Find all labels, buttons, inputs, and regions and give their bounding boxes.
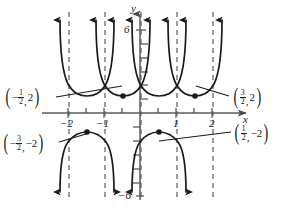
- paren-close: ): [35, 88, 40, 107]
- point-marker-half-neg2: [156, 129, 162, 135]
- paren-open: (: [3, 134, 8, 153]
- x-tick-label-1: 1: [173, 118, 179, 129]
- y-tick-label-neg6: −6: [118, 190, 131, 201]
- point-marker-three-half-2: [192, 93, 198, 99]
- paren-close: ): [39, 134, 44, 153]
- annotation-comma: ,: [24, 96, 27, 107]
- paren-close: ): [256, 88, 261, 107]
- annotation-lower-left-y: −2: [26, 138, 38, 149]
- point-marker-neg-half-2: [120, 93, 126, 99]
- branch-upward-1-2: [168, 20, 222, 96]
- annotation-lower-right-y: −2: [250, 128, 262, 139]
- x-tick-label-neg1: −1: [96, 118, 109, 129]
- x-tick-label-neg2: −2: [60, 118, 73, 129]
- annotation-upper-left-y: 2: [28, 92, 34, 103]
- annotation-upper-right-point: ( 3 2 , 2 ): [232, 88, 263, 107]
- y-tick-label-6: 6: [124, 24, 130, 35]
- branch-downward-neg2-neg1: [60, 132, 114, 192]
- paren-open: (: [234, 124, 239, 143]
- annotation-comma: ,: [22, 142, 25, 153]
- paren-close: ): [264, 124, 269, 143]
- annotation-lower-right-point: ( 1 2 , −2 ): [233, 124, 270, 143]
- graph-figure: x y −2 −1 1 2 6 −6 ( − 1 2 , 2 ) ( 3 2 ,…: [0, 0, 286, 210]
- point-marker-neg-three-half-neg2: [84, 129, 90, 135]
- annotation-upper-right-y: 2: [249, 92, 255, 103]
- branch-upward-neg2-neg1: [60, 20, 114, 96]
- paren-open: (: [233, 88, 238, 107]
- x-tick-label-2: 2: [209, 118, 215, 129]
- annotation-upper-left-point: ( − 1 2 , 2 ): [4, 88, 41, 107]
- annotation-comma: ,: [246, 96, 249, 107]
- leader-lower-left: [59, 134, 86, 142]
- y-axis-label: y: [131, 3, 136, 14]
- annotation-lower-left-point: ( − 3 2 , −2 ): [2, 134, 45, 153]
- annotation-comma: ,: [247, 132, 250, 143]
- paren-open: (: [5, 88, 10, 107]
- asymptote-group: [69, 12, 213, 198]
- axis-group: [42, 14, 246, 200]
- leader-lower-right: [159, 132, 231, 141]
